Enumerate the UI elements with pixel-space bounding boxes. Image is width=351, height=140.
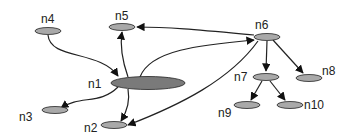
node-ellipse-n3 <box>42 107 68 114</box>
node-n10: n10 <box>277 98 324 112</box>
node-n6: n6 <box>254 18 280 41</box>
edge-n4-to-n1 <box>48 35 118 76</box>
node-label-n5: n5 <box>115 9 129 23</box>
node-ellipse-n5 <box>109 24 135 31</box>
node-label-n7: n7 <box>234 70 248 84</box>
edge-n6-to-n5 <box>137 27 254 35</box>
node-label-n2: n2 <box>84 121 98 135</box>
node-label-n10: n10 <box>304 98 324 112</box>
directed-graph-diagram: n1n2n3n4n5n6n7n8n9n10 <box>0 0 351 140</box>
node-label-n4: n4 <box>41 12 55 26</box>
node-ellipse-n4 <box>35 28 61 35</box>
node-label-n3: n3 <box>19 110 33 124</box>
node-label-n8: n8 <box>322 64 336 78</box>
node-n4: n4 <box>35 12 61 35</box>
node-label-n1: n1 <box>88 77 102 91</box>
edge-n6-to-n7 <box>266 41 267 71</box>
node-ellipse-n6 <box>254 34 280 41</box>
node-ellipse-n9 <box>234 102 260 109</box>
edge-n1-to-n5 <box>121 32 128 77</box>
node-label-n6: n6 <box>255 18 269 32</box>
node-n2: n2 <box>84 121 127 135</box>
node-n1: n1 <box>88 77 185 92</box>
node-n7: n7 <box>234 70 279 84</box>
edge-n1-to-n2 <box>121 89 129 121</box>
node-ellipse-n1 <box>111 77 185 90</box>
node-ellipse-n7 <box>253 74 279 81</box>
edge-n6-to-n8 <box>273 40 303 73</box>
node-n3: n3 <box>19 107 68 125</box>
edge-n7-to-n10 <box>270 81 285 100</box>
edge-n7-to-n9 <box>251 81 262 100</box>
node-ellipse-n8 <box>296 75 322 82</box>
node-ellipse-n10 <box>277 102 303 109</box>
node-n9: n9 <box>218 102 260 121</box>
node-label-n9: n9 <box>218 106 232 120</box>
node-ellipse-n2 <box>101 122 127 129</box>
node-n8: n8 <box>296 64 336 82</box>
node-n5: n5 <box>109 9 135 31</box>
